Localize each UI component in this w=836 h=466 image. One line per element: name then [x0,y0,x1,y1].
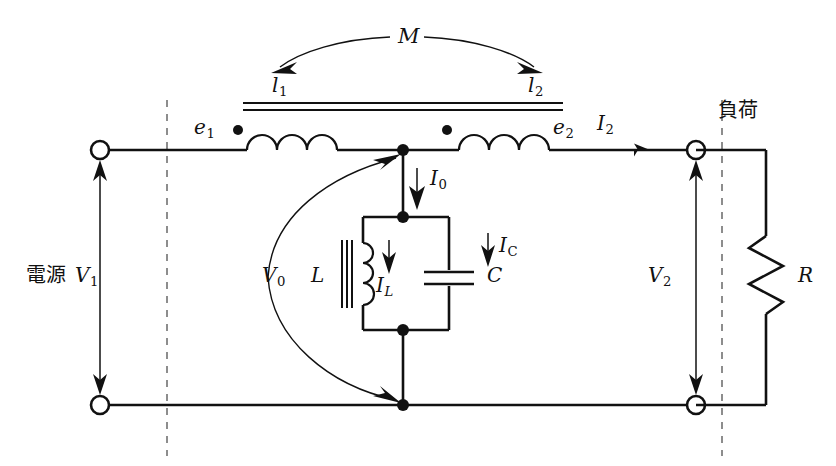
tank-bottom-junction-node [397,399,409,411]
secondary-inductance-subscript: 2 [534,84,543,99]
inductor-current-label: IL [376,275,393,298]
emf-primary-subscript: 1 [206,126,215,141]
primary-coil [247,135,337,150]
emf-secondary-subscript: 2 [565,126,574,141]
tank-current-label: I0 [430,168,447,191]
resistor-label: R [798,265,813,285]
mutual-inductance-label: M [398,26,420,47]
load-side-label: 負荷 [718,100,758,120]
tank-current-subscript: 0 [438,177,447,192]
secondary-polarity-dot [442,125,452,135]
inductor-current-subscript: L [384,284,393,299]
load-voltage-symbol: V [648,263,662,287]
tank-voltage-subscript: 0 [276,274,285,289]
capacitor-current-symbol: I [499,233,507,257]
capacitor-current-label: IC [499,235,518,258]
emf-secondary-label: e2 [553,117,574,140]
secondary-coil [459,135,549,150]
load-voltage-subscript: 2 [662,274,671,289]
secondary-current-label: I2 [597,113,614,136]
secondary-inductance-label: l2 [528,75,543,98]
emf-secondary-symbol: e [553,115,565,139]
primary-inductance-label: l1 [272,75,287,98]
load-side-text: 負荷 [718,98,758,122]
tank-inductor-coil [363,243,374,305]
source-voltage-subscript: 1 [89,274,98,289]
tank-voltage-symbol: V [262,263,276,287]
circuit-diagram-canvas: M l1 l2 e1 e2 I2 I0 IC IL 電源V1 負荷 V0 L C… [0,0,836,466]
source-terminal-top[interactable] [91,141,109,159]
primary-inductance-subscript: 1 [278,84,287,99]
source-side-label: 電源 [26,263,66,287]
load-voltage-label: V2 [648,265,672,288]
load-resistor [749,236,783,314]
tank-voltage-label: V0 [262,265,286,288]
circuit-schematic-svg [0,0,836,466]
primary-polarity-dot [233,125,243,135]
secondary-current-arrowhead [634,144,650,157]
tank-current-symbol: I [430,166,438,190]
secondary-current-symbol: I [597,111,605,135]
emf-primary-label: e1 [194,117,215,140]
capacitor-current-subscript: C [507,244,518,259]
inductor-label: L [311,265,324,285]
capacitor-label: C [487,265,502,285]
source-side-group: 電源V1 [26,265,99,288]
tank-voltage-upper-arrowhead [373,154,401,170]
inductor-current-symbol: I [376,273,384,297]
source-voltage-symbol: V [66,263,89,287]
emf-primary-symbol: e [194,115,206,139]
source-terminal-bottom[interactable] [91,396,109,414]
secondary-current-subscript: 2 [605,122,614,137]
